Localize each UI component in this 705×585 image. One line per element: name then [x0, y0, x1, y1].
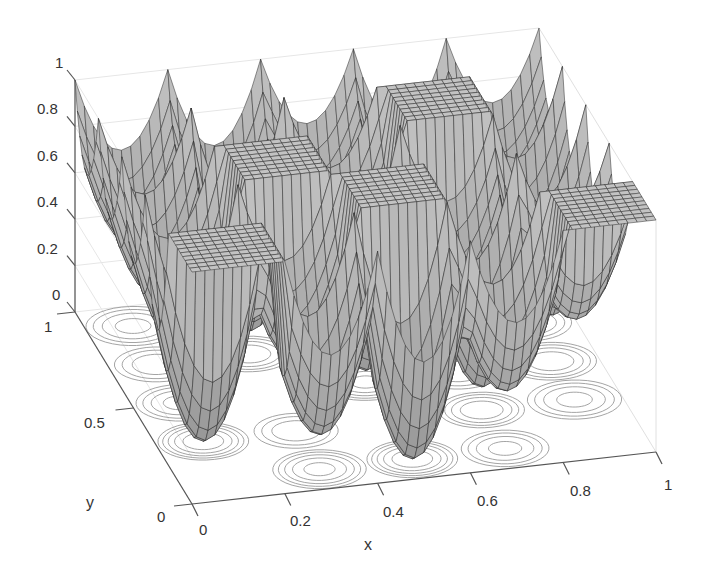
z-tick-label-0.2: 0.2: [37, 240, 58, 257]
x-tick-label-0.6: 0.6: [477, 492, 498, 509]
x-tick-label-0.2: 0.2: [290, 512, 311, 529]
z-tick-label-0.6: 0.6: [37, 147, 58, 164]
x-tick-label-1: 1: [664, 476, 672, 493]
x-axis-label: x: [364, 536, 372, 554]
y-tick-label-1: 1: [44, 318, 52, 335]
y-tick-label-0: 0: [157, 508, 165, 525]
surface-plot-figure: 0 0.2 0.4 0.6 0.8 1 0 0.5 1 y 0 0.2 0.4 …: [0, 0, 705, 585]
z-tick-label-1: 1: [55, 54, 63, 71]
plot-canvas: [0, 0, 705, 585]
surface-mesh: [75, 28, 656, 459]
x-tick-label-0.4: 0.4: [383, 503, 404, 520]
z-tick-label-0.8: 0.8: [37, 100, 58, 117]
z-tick-label-0: 0: [52, 286, 60, 303]
z-tick-label-0.4: 0.4: [37, 193, 58, 210]
x-tick-label-0: 0: [199, 521, 207, 538]
x-tick-label-0.8: 0.8: [570, 482, 591, 499]
y-tick-label-0.5: 0.5: [84, 414, 105, 431]
y-axis-label: y: [86, 494, 94, 512]
